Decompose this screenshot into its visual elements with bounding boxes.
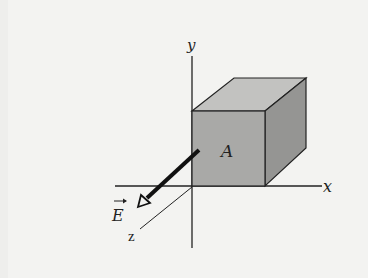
y-axis-label: y [186, 36, 196, 54]
svg-text:E: E [111, 206, 124, 225]
x-axis-label: x [323, 177, 332, 196]
face-label: A [219, 141, 233, 161]
cube [192, 78, 306, 186]
z-axis-label: z [128, 228, 135, 244]
cube-field-diagram: y x z A E [0, 0, 368, 278]
field-arrow [138, 150, 199, 207]
z-axis [140, 187, 192, 229]
field-label: E [111, 199, 127, 226]
